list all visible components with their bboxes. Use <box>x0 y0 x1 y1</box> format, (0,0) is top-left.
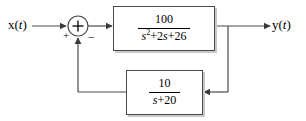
feedback-path-block: 10 s+20 <box>126 70 203 115</box>
feedback-path-fraction: 10 s+20 <box>147 77 182 108</box>
feedback-path-denominator: s+20 <box>147 93 182 108</box>
summing-junction-feedback-sign: − <box>88 31 95 43</box>
forward-path-numerator: 100 <box>136 13 193 28</box>
forward-path-fraction: 100 s2+2s+26 <box>136 13 193 44</box>
input-signal-label: x(t) <box>8 18 27 31</box>
feedback-path-numerator: 10 <box>147 77 182 92</box>
summing-junction-input-sign: + <box>63 30 69 41</box>
block-diagram-canvas: x(t) y(t) + − 100 s2+2s+26 10 s+20 <box>0 0 306 121</box>
forward-path-block: 100 s2+2s+26 <box>113 6 215 51</box>
output-signal-label: y(t) <box>272 18 291 31</box>
forward-path-denominator: s2+2s+26 <box>136 29 193 44</box>
forward-path-denominator-rest: +2s+26 <box>150 29 186 43</box>
